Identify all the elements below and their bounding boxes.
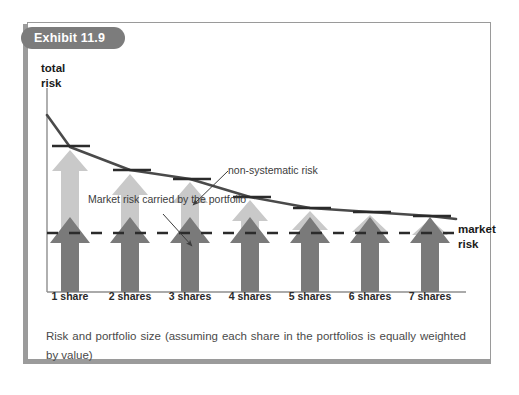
market-risk-arrow-2 xyxy=(110,217,150,292)
y-axis-title-line2: risk xyxy=(41,76,65,91)
market-risk-label: market risk xyxy=(458,222,496,252)
non-systematic-risk-annotation: non-systematic risk xyxy=(228,163,318,177)
market-risk-arrows xyxy=(50,217,450,292)
market-risk-annotation: Market risk carried by the portfolio xyxy=(86,192,248,206)
market-risk-label-line1: market xyxy=(458,222,496,237)
y-axis-title: total risk xyxy=(41,61,65,91)
y-axis-title-line1: total xyxy=(41,61,65,76)
market-risk-arrow-7 xyxy=(410,217,450,292)
market-risk-arrow-4 xyxy=(230,217,270,292)
exhibit-caption: Risk and portfolio size (assuming each s… xyxy=(46,327,466,365)
category-label-7: 7 shares xyxy=(395,290,465,302)
market-risk-arrow-1 xyxy=(50,217,90,292)
exhibit-figure: Exhibit 11.9 xyxy=(0,0,519,395)
market-risk-label-line2: risk xyxy=(458,237,496,252)
